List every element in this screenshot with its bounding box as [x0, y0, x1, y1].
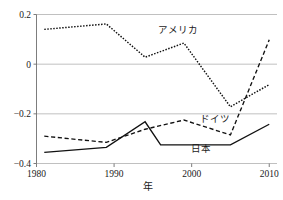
- series-label: アメリカ: [158, 24, 198, 35]
- data-series: [44, 24, 269, 152]
- series-line-dotted: [44, 24, 269, 107]
- y-tick-label: 0: [26, 60, 31, 70]
- y-tick-label: −0.4: [14, 159, 31, 169]
- series-line-solid: [44, 122, 269, 153]
- x-tick-label: 1990: [105, 169, 124, 179]
- x-tick-label: 2000: [182, 169, 201, 179]
- series-label: 日本: [191, 143, 211, 154]
- gridlines: [37, 15, 278, 164]
- series-label: ドイツ: [200, 113, 230, 124]
- line-chart: −0.4−0.200.2 1980199020002010 アメリカドイツ日本 …: [0, 0, 283, 200]
- x-tick-label: 1980: [27, 169, 46, 179]
- x-tick-label: 2010: [260, 169, 279, 179]
- x-axis-title: 年: [143, 180, 153, 192]
- y-tick-label: −0.2: [14, 109, 31, 119]
- chart-canvas: −0.4−0.200.2 1980199020002010 アメリカドイツ日本 …: [0, 0, 283, 200]
- tick-marks: [34, 15, 270, 168]
- series-line-dashed: [44, 40, 269, 143]
- y-tick-labels: −0.4−0.200.2: [14, 10, 31, 169]
- y-tick-label: 0.2: [19, 10, 31, 20]
- x-tick-labels: 1980199020002010: [27, 169, 279, 179]
- series-annotations: アメリカドイツ日本: [158, 24, 230, 153]
